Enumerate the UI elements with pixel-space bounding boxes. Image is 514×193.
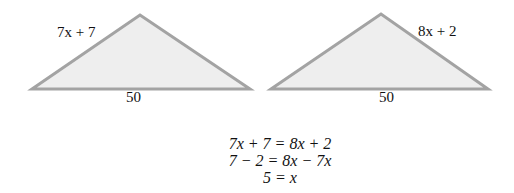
equation-2: 7 − 2 = 8x − 7x [200,152,360,169]
left-triangle-base-label: 50 [126,89,141,106]
right-triangle-base-label: 50 [379,89,394,106]
equation-1: 7x + 7 = 8x + 2 [200,135,360,152]
equation-block: 7x + 7 = 8x + 2 7 − 2 = 8x − 7x 5 = x [200,135,360,186]
left-triangle-side-label: 7x + 7 [57,24,95,41]
equation-3: 5 = x [200,169,360,186]
right-triangle-side-label: 8x + 2 [418,23,456,40]
